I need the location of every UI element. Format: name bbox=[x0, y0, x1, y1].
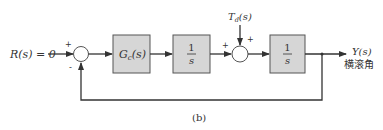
sum2-top-plus-sign: + bbox=[247, 35, 254, 44]
output-sublabel: 横滚角 bbox=[344, 58, 374, 70]
controller-label: Gc(s) bbox=[119, 48, 146, 62]
controller-arg: (s) bbox=[132, 48, 146, 61]
integrator2-numerator: 1 bbox=[284, 42, 290, 53]
figure-caption: (b) bbox=[192, 112, 206, 123]
integrator2-denominator: s bbox=[285, 55, 290, 66]
disturbance-arg: (s) bbox=[239, 11, 252, 22]
sum1-plus-sign: + bbox=[65, 40, 72, 49]
integrator1-denominator: s bbox=[189, 55, 194, 66]
controller-main: G bbox=[119, 48, 128, 61]
summing-junction-2 bbox=[232, 46, 248, 62]
sum1-minus-sign: - bbox=[69, 63, 72, 72]
summing-junction-1 bbox=[74, 47, 89, 62]
sum2-left-plus-sign: + bbox=[222, 41, 229, 50]
integrator1-numerator: 1 bbox=[188, 42, 194, 53]
disturbance-label: Td(s) bbox=[228, 11, 252, 24]
block-diagram: R(s) = 0 + - Gc(s) 1 s + + Td(s) 1 s Y(s… bbox=[0, 0, 383, 130]
output-label: Y(s) bbox=[352, 46, 372, 57]
